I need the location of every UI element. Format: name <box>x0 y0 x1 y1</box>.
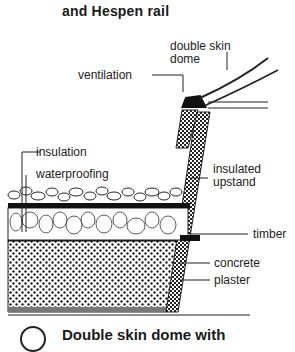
label-insulated-upstand: insulated upstand <box>213 163 261 189</box>
label-waterproofing: waterproofing <box>36 168 109 181</box>
label-plaster: plaster <box>214 274 250 287</box>
label-timber: timber <box>253 228 286 241</box>
label-ventilation: ventilation <box>78 69 132 82</box>
label-concrete: concrete <box>214 257 260 270</box>
label-line: dome <box>170 53 231 66</box>
figure-number-circle <box>20 326 46 352</box>
pebble-ballast <box>8 187 190 208</box>
label-insulation: insulation <box>36 146 87 159</box>
insulation-layer <box>8 208 188 240</box>
label-line: upstand <box>213 176 261 189</box>
label-double-skin-dome: double skin dome <box>170 40 231 66</box>
figure-caption: Double skin dome with <box>62 326 225 343</box>
timber-block <box>180 235 200 241</box>
